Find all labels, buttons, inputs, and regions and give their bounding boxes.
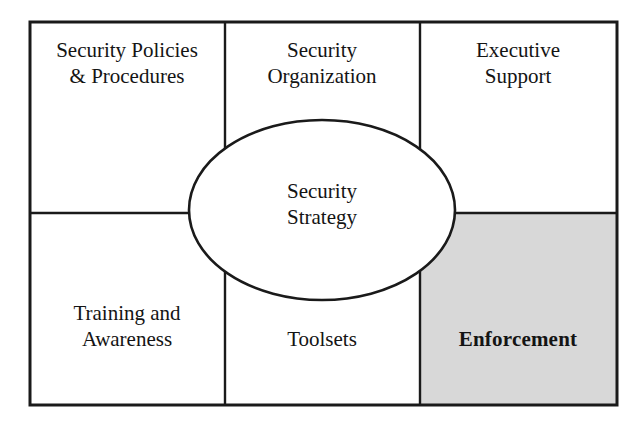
cell-label-security-policies-line2: & Procedures — [70, 64, 185, 88]
cell-label-toolsets: Toolsets — [287, 327, 357, 351]
cell-label-executive-support-line2: Support — [485, 64, 552, 88]
center-label-security-strategy-line1: Security — [287, 179, 357, 203]
center-label-security-strategy-line2: Strategy — [287, 205, 357, 229]
cell-label-security-organization-line1: Security — [287, 38, 357, 62]
cell-label-security-policies-line1: Security Policies — [56, 38, 198, 62]
cell-label-executive-support-line1: Executive — [476, 38, 560, 62]
cell-label-enforcement: Enforcement — [459, 327, 577, 351]
cell-label-security-organization-line2: Organization — [267, 64, 377, 88]
framework-svg: Security Policies & Procedures Security … — [0, 0, 641, 428]
security-strategy-diagram: Security Policies & Procedures Security … — [0, 0, 641, 428]
enforcement-cell-shading — [420, 213, 617, 405]
cell-label-training-awareness-line1: Training and — [73, 301, 181, 325]
cell-label-training-awareness-line2: Awareness — [82, 327, 172, 351]
